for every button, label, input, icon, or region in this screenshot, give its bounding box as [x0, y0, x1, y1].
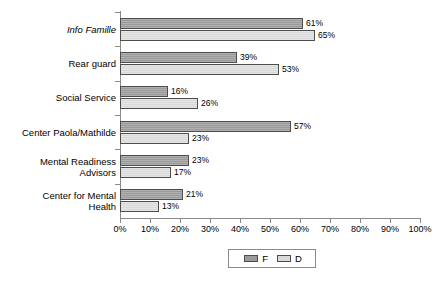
- x-axis-tick: [120, 219, 121, 223]
- bar: [120, 133, 189, 144]
- x-axis-tick: [330, 219, 331, 223]
- category-label: Center Paola/Mathilde: [4, 127, 116, 138]
- bar: [120, 167, 171, 178]
- bar: [120, 52, 237, 63]
- bar-value-label: 16%: [171, 86, 188, 97]
- y-axis-tick: [115, 81, 120, 82]
- category-label: Rear guard: [4, 58, 116, 69]
- bar-value-label: 21%: [186, 189, 203, 200]
- x-axis-tick: [150, 219, 151, 223]
- x-axis-tick: [270, 219, 271, 223]
- bar: [120, 98, 198, 109]
- bar-value-label: 61%: [306, 18, 323, 29]
- x-axis-tick: [300, 219, 301, 223]
- bar-value-label: 57%: [294, 121, 311, 132]
- bar: [120, 18, 303, 29]
- bar-value-label: 65%: [318, 30, 335, 41]
- x-axis-tick: [420, 219, 421, 223]
- y-axis-tick: [115, 115, 120, 116]
- bar-value-label: 23%: [192, 133, 209, 144]
- category-label: Info Famille: [4, 24, 116, 35]
- bar: [120, 189, 183, 200]
- legend-row: FD: [229, 250, 317, 267]
- bar-value-label: 23%: [192, 155, 209, 166]
- y-axis-tick: [115, 184, 120, 185]
- bar-value-label: 39%: [240, 52, 257, 63]
- category-label: Center for Mental Health: [4, 190, 116, 212]
- legend-item: F: [244, 253, 268, 264]
- bar: [120, 155, 189, 166]
- y-axis-tick: [115, 12, 120, 13]
- y-axis-tick: [115, 46, 120, 47]
- bar: [120, 201, 159, 212]
- chart-legend: FD: [228, 249, 316, 268]
- y-axis-tick: [115, 149, 120, 150]
- bar-value-label: 26%: [201, 98, 218, 109]
- x-axis-tick: [240, 219, 241, 223]
- bar: [120, 64, 279, 75]
- x-axis-tick: [390, 219, 391, 223]
- category-axis-labels: Info FamilleRear guardSocial ServiceCent…: [0, 0, 116, 281]
- legend-label: D: [295, 253, 302, 264]
- x-axis-tick-label: 100%: [400, 224, 440, 235]
- legend-label: F: [262, 253, 268, 264]
- x-axis-tick: [210, 219, 211, 223]
- legend-item: D: [277, 253, 302, 264]
- category-label: Mental Readiness Advisors: [4, 156, 116, 178]
- bar-value-label: 13%: [162, 201, 179, 212]
- horizontal-bar-chart: Info FamilleRear guardSocial ServiceCent…: [0, 0, 444, 281]
- bar-value-label: 53%: [282, 64, 299, 75]
- bar: [120, 86, 168, 97]
- category-label: Social Service: [4, 92, 116, 103]
- plot-area: [120, 12, 420, 218]
- bar: [120, 30, 315, 41]
- bar-value-label: 17%: [174, 167, 191, 178]
- bar: [120, 121, 291, 132]
- legend-swatch-f: [244, 255, 258, 262]
- x-axis-tick: [360, 219, 361, 223]
- legend-swatch-d: [277, 255, 291, 262]
- x-axis-tick: [180, 219, 181, 223]
